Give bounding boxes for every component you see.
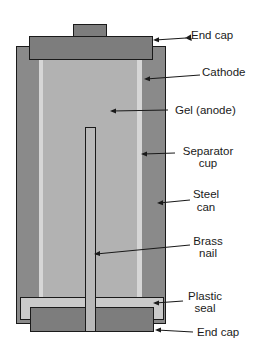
arrow-bottom-end-cap [157, 330, 193, 332]
label-seal-line2: seal [194, 302, 215, 314]
label-gel-anode: Gel (anode) [175, 104, 236, 116]
label-steel-line1: Steel [193, 188, 219, 200]
label-seal-line1: Plastic [188, 290, 222, 302]
arrow-top-end-cap [155, 38, 186, 40]
label-nail-line1: Brass [193, 235, 222, 247]
top-end-cap [29, 36, 153, 60]
label-cathode: Cathode [202, 66, 245, 78]
cathode-right [142, 47, 165, 297]
label-top-end-cap: End cap [191, 29, 233, 41]
label-nail-line2: nail [199, 247, 217, 259]
brass-nail [85, 127, 96, 332]
label-steel-line2: can [197, 201, 216, 213]
label-bottom-end-cap: End cap [197, 326, 239, 338]
label-separator-line2: cup [199, 157, 218, 169]
label-separator-line1: Separator [183, 145, 234, 157]
cathode-left [17, 47, 39, 297]
